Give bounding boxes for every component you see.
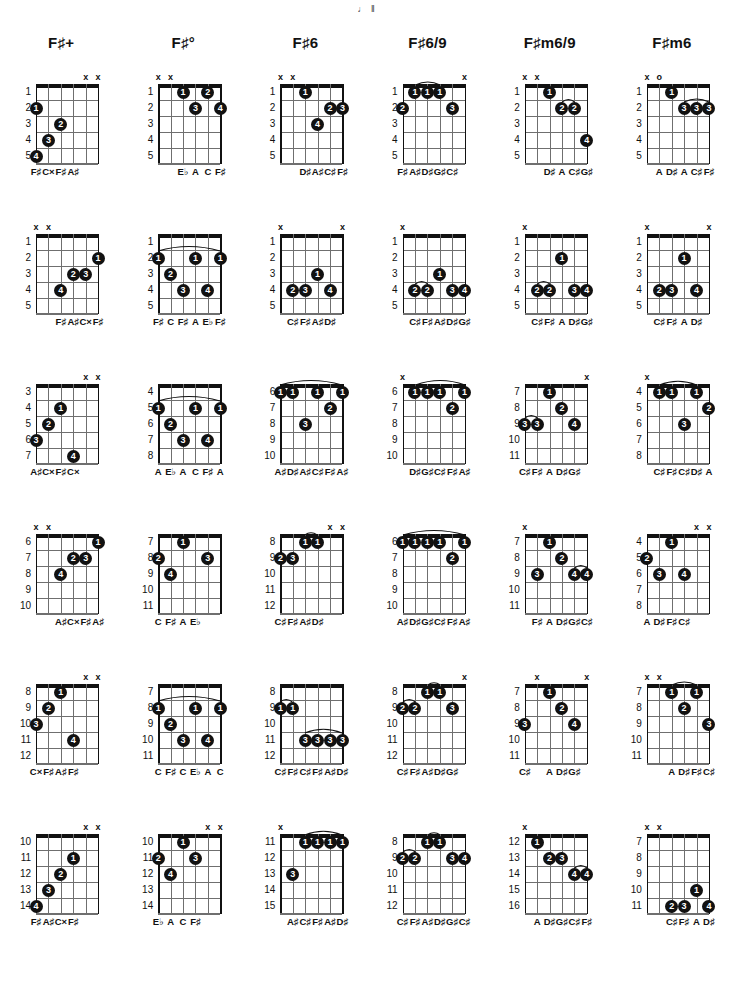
chord-diagram-fsharpm69-pos3[interactable]: x789101112334C♯F♯AD♯G♯ (489, 362, 611, 512)
finger-dot: 1 (421, 536, 434, 549)
fretboard-bottom-edge (403, 613, 465, 614)
fretboard-bottom-edge (36, 313, 98, 314)
fret-line (525, 282, 587, 283)
fret-number-labels: 678910 (244, 384, 277, 464)
open-string-marks: xx (280, 222, 342, 233)
finger-dot: 3 (42, 134, 55, 147)
fret-number: 9 (244, 703, 275, 713)
fret-number-labels: 45678 (122, 384, 155, 464)
chord-diagram-fsharp6-pos2[interactable]: xx123451234C♯F♯A♯D♯ (244, 212, 366, 362)
muted-string-icon: x (93, 72, 103, 83)
chord-diagram-fsharp69-pos1[interactable]: x1234511123F♯A♯D♯G♯C♯ (367, 62, 489, 212)
nut (36, 84, 98, 88)
note-names: AD♯G♯C♯F♯ (489, 916, 611, 930)
chord-diagram-fsharpm6-pos6[interactable]: xx78910111234C♯F♯AD♯ (611, 812, 733, 962)
note-names: C♯F♯A♯D♯G♯ (367, 766, 489, 780)
fret-line (158, 764, 220, 765)
fret-number: 9 (489, 569, 520, 579)
string-line (280, 234, 281, 314)
chord-diagram-fsharp69-pos3[interactable]: x67891011112D♯G♯C♯F♯A♯ (367, 362, 489, 512)
fret-line (36, 416, 98, 417)
fret-number: 4 (489, 285, 520, 295)
chord-diagram-fsharpm6-pos4[interactable]: xx456781234AD♯F♯C♯ (611, 512, 733, 662)
muted-string-icon: x (704, 522, 714, 533)
note-names: F♯A♯C×F♯ (0, 916, 122, 930)
open-string-marks: x (525, 222, 587, 233)
string-line (305, 684, 306, 764)
open-string-marks: xx (158, 72, 220, 83)
chord-diagram-fsharp6-pos4[interactable]: xx891011121123C♯F♯A♯D♯ (244, 512, 366, 662)
finger-dot: 3 (79, 268, 92, 281)
chord-diagram-fsharp-aug-pos2[interactable]: xx123451234F♯A♯C×F♯ (0, 212, 122, 362)
chord-diagram-fsharp69-pos5[interactable]: x8910111211223C♯F♯A♯D♯G♯ (367, 662, 489, 812)
finger-dot: 1 (189, 402, 202, 415)
chord-diagram-fsharpm69-pos4[interactable]: x789101112344F♯AD♯G♯C♯ (489, 512, 611, 662)
chord-diagram-fsharp69-pos4[interactable]: 678910111112A♯D♯G♯C♯F♯A♯ (367, 512, 489, 662)
chord-diagram-fsharp-dim-pos1[interactable]: xx123451234E♭ACF♯ (122, 62, 244, 212)
chord-diagram-fsharp6-pos3[interactable]: 678910111123A♯D♯A♯C♯F♯A♯ (244, 362, 366, 512)
finger-dot: 2 (555, 552, 568, 565)
string-line (403, 684, 404, 764)
open-string-marks: xo (647, 72, 709, 83)
chord-diagram-fsharpm6-pos3[interactable]: x4567811123C♯F♯C♯D♯A (611, 362, 733, 512)
fret-line (647, 266, 709, 267)
finger-dot: 1 (665, 536, 678, 549)
fret-line (647, 116, 709, 117)
chord-diagram-fsharp-aug-pos5[interactable]: xx891011121234C×F♯A♯F♯ (0, 662, 122, 812)
chord-diagram-fsharp69-pos2[interactable]: x1234512234C♯F♯A♯D♯G♯ (367, 212, 489, 362)
chord-diagram-fsharpm69-pos2[interactable]: x1234512234C♯F♯AD♯G♯ (489, 212, 611, 362)
finger-dot: 4 (214, 102, 227, 115)
finger-dot: 4 (580, 134, 593, 147)
chord-diagram-fsharp-dim-pos6[interactable]: xx10111213141234E♭ACF♯ (122, 812, 244, 962)
chord-diagram-fsharpm69-pos6[interactable]: x121314151612344AD♯G♯C♯F♯ (489, 812, 611, 962)
fret-line (525, 266, 587, 267)
fret-number: 5 (122, 301, 153, 311)
chord-diagram-fsharpm69-pos5[interactable]: xx78910111234C♯AD♯G♯ (489, 662, 611, 812)
chord-diagram-fsharpm69-pos1[interactable]: xx123451224D♯AC♯G♯ (489, 62, 611, 212)
top-fret-line (403, 834, 465, 838)
chord-diagram-fsharp6-pos1[interactable]: xx123451234D♯A♯C♯F♯ (244, 62, 366, 212)
fret-line (403, 282, 465, 283)
fret-number-labels: 7891011 (489, 384, 522, 464)
muted-string-icon: x (31, 522, 41, 533)
fret-line (158, 132, 220, 133)
chord-diagram-fsharpm6-pos5[interactable]: xx78910111123AD♯F♯C♯ (611, 662, 733, 812)
string-line (452, 84, 453, 164)
finger-dot: 2 (274, 552, 287, 565)
fret-number-labels: 12345 (244, 234, 277, 314)
chord-diagram-fsharp-dim-pos3[interactable]: 45678111234AE♭ACF♯A (122, 362, 244, 512)
fret-line (280, 266, 342, 267)
fret-number: 10 (367, 869, 398, 879)
finger-dot: 1 (54, 686, 67, 699)
fret-line (525, 914, 587, 915)
chord-diagram-fsharp-dim-pos5[interactable]: 7891011111234CF♯CE♭AC (122, 662, 244, 812)
string-line (98, 834, 99, 914)
finger-dot: 3 (311, 734, 324, 747)
chord-diagram-fsharp-aug-pos4[interactable]: xx6789101234A♯C×F♯A♯ (0, 512, 122, 662)
fret-number: 8 (122, 451, 153, 461)
chord-diagram-fsharp-aug-pos6[interactable]: xx10111213141234F♯A♯C×F♯ (0, 812, 122, 962)
fret-number: 11 (611, 901, 642, 911)
string-line (183, 384, 184, 464)
chord-diagram-fsharpm6-pos1[interactable]: xo123451333AD♯AC♯F♯ (611, 62, 733, 212)
chord-diagram-fsharp-dim-pos4[interactable]: 78910111234CF♯AE♭ (122, 512, 244, 662)
chord-diagram-fsharp6-pos5[interactable]: 89101112113333C♯F♯C♯F♯A♯D♯ (244, 662, 366, 812)
string-line (330, 684, 331, 764)
fret-number: 2 (0, 103, 31, 113)
chord-diagram-fsharp-dim-pos2[interactable]: 12345111234F♯CF♯AE♭F♯ (122, 212, 244, 362)
chord-diagram-fsharp6-pos6[interactable]: x111213141511113A♯C♯F♯A♯D♯ (244, 812, 366, 962)
chord-diagram-fsharp-aug-pos1[interactable]: xx123451234F♯C×F♯A♯ (0, 62, 122, 212)
chord-diagram-fsharp69-pos6[interactable]: 89101112112234C♯F♯A♯D♯G♯C♯ (367, 812, 489, 962)
fret-number: 10 (122, 585, 153, 595)
open-string-marks: xx (647, 222, 709, 233)
fret-number: 10 (489, 435, 520, 445)
finger-dot: 1 (433, 268, 446, 281)
open-string-marks: x (280, 822, 342, 833)
fret-number: 4 (367, 285, 398, 295)
chord-diagram-fsharpm6-pos2[interactable]: xx123451234C♯F♯AD♯ (611, 212, 733, 362)
fret-number: 9 (0, 703, 31, 713)
note-names: CF♯CE♭AC (122, 766, 244, 780)
chord-diagram-fsharp-aug-pos3[interactable]: xx345671234A♯C×F♯C× (0, 362, 122, 512)
fretboard-bottom-edge (647, 313, 709, 314)
fret-number: 7 (611, 687, 642, 697)
